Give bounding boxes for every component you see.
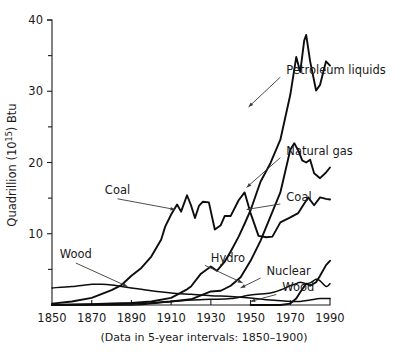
annotation-petroleum liquids-2: Petroleum liquids <box>249 63 386 107</box>
annotation-label: Petroleum liquids <box>286 63 386 77</box>
y-tick-label: 20 <box>28 156 43 170</box>
annotation-leader-line <box>205 265 243 283</box>
x-tick-label: 1890 <box>117 311 146 325</box>
svg-text:Quadrillion (1015) Btu: Quadrillion (1015) Btu <box>5 103 19 226</box>
annotation-coal-0: Coal <box>105 183 175 211</box>
annotation-wood-7: Wood <box>251 280 315 302</box>
annotation-label: Wood <box>60 247 92 261</box>
y-axis-title-suffix: ) Btu <box>5 103 19 131</box>
chart-annotations-group: CoalWoodPetroleum liquidsNatural gasCoal… <box>60 63 386 302</box>
y-tick-label: 40 <box>28 13 43 27</box>
annotation-leader-line <box>118 199 176 210</box>
annotation-natural gas-3: Natural gas <box>247 144 353 188</box>
y-axis-title-prefix: Quadrillion (10 <box>5 141 19 226</box>
x-tick-label: 1870 <box>77 311 106 325</box>
y-tick-label: 30 <box>28 84 43 98</box>
x-tick-label: 1930 <box>196 311 225 325</box>
energy-consumption-chart-figure: 10203040 1850187018901910193019501970199… <box>0 0 407 355</box>
x-tick-label: 1910 <box>157 311 186 325</box>
x-tick-label: 1970 <box>276 311 305 325</box>
y-axis-title-exponent: 15 <box>5 131 14 141</box>
y-axis-ticks <box>47 20 52 269</box>
annotation-leader-line <box>249 77 281 107</box>
annotation-label: Nuclear <box>266 264 311 278</box>
x-axis-tick-labels: 18501870189019101930195019701990 <box>37 311 344 325</box>
annotation-label: Hydro <box>211 251 245 265</box>
annotation-wood-1: Wood <box>60 247 128 287</box>
annotation-label: Wood <box>282 280 314 294</box>
chart-caption: (Data in 5-year intervals: 1850–1900) <box>100 331 307 344</box>
annotation-leader-line <box>247 158 281 188</box>
annotation-label: Coal <box>286 190 311 204</box>
x-tick-label: 1990 <box>315 311 344 325</box>
annotation-label: Coal <box>105 183 130 197</box>
y-axis-title: Quadrillion (1015) Btu <box>5 103 19 226</box>
annotation-arrowhead <box>241 284 246 288</box>
x-tick-label: 1950 <box>236 311 265 325</box>
chart-canvas: 10203040 1850187018901910193019501970199… <box>0 0 407 355</box>
y-tick-label: 10 <box>28 227 43 241</box>
x-tick-label: 1850 <box>37 311 66 325</box>
y-axis-tick-labels: 10203040 <box>28 13 43 241</box>
annotation-label: Natural gas <box>286 144 352 158</box>
annotation-leader-line <box>76 263 128 287</box>
